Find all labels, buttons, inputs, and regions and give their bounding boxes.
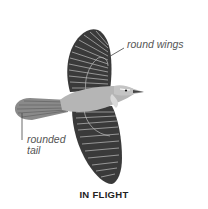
lower-wing	[72, 106, 122, 184]
figure-caption: IN FLIGHT	[0, 189, 208, 200]
field-guide-figure: round wings rounded tail IN FLIGHT	[0, 0, 208, 209]
round-wings-label: round wings	[127, 39, 184, 50]
upper-wing	[67, 29, 111, 92]
rounded-tail-label-line2: tail	[27, 145, 66, 156]
tail	[15, 98, 68, 120]
head	[114, 85, 144, 95]
eye-icon	[125, 89, 127, 91]
bird-in-flight-illustration	[0, 0, 208, 209]
rounded-tail-label: rounded tail	[27, 134, 66, 156]
